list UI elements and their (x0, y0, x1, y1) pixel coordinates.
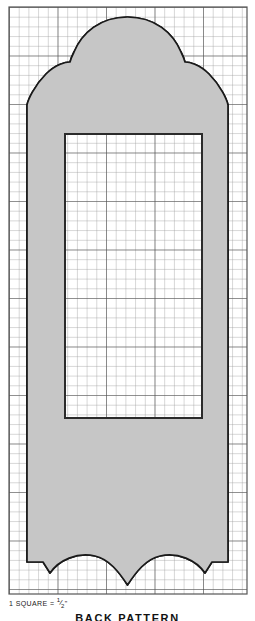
scale-unit: " (65, 600, 68, 607)
scale-note: 1 SQUARE = 1/2" (9, 598, 68, 610)
pattern-drawing-sheet (0, 0, 255, 621)
scale-fraction: 1/2 (57, 597, 65, 609)
drawing-title: BACK PATTERN (0, 613, 255, 621)
scale-note-prefix: 1 SQUARE = (9, 600, 54, 607)
